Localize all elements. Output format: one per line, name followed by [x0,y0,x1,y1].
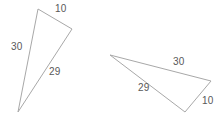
left-triangle-side-label-30: 30 [11,41,23,52]
right-triangle-side-label-30: 30 [173,56,185,67]
right-triangle-side-label-29: 29 [138,82,150,93]
triangles-svg [0,0,221,119]
right-triangle-outline [110,55,211,112]
geometry-figure-canvas: 10 30 29 30 29 10 [0,0,221,119]
right-triangle-side-label-10: 10 [202,95,214,106]
left-triangle-side-label-29: 29 [49,66,61,77]
left-triangle-outline [18,9,72,112]
left-triangle-side-label-10: 10 [55,3,67,14]
